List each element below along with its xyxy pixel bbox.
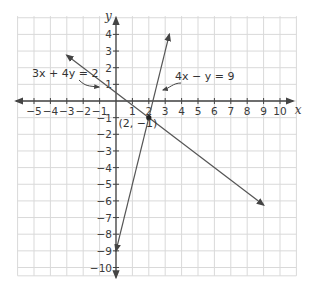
x-axis-label: x	[295, 103, 302, 117]
y-tick-label: 4	[105, 28, 112, 40]
x-tick-label: 3	[162, 105, 169, 117]
y-tick-label: −4	[97, 162, 113, 174]
y-tick-label: −9	[97, 245, 112, 257]
y-tick-label: −3	[97, 145, 112, 157]
x-tick-label: 6	[211, 105, 218, 117]
y-tick-label: −5	[97, 178, 112, 190]
y-axis-label: y	[104, 9, 112, 23]
y-tick-label: −8	[97, 228, 112, 240]
equation-label-2: 4x − y = 9	[175, 70, 234, 83]
y-tick-label: −7	[97, 212, 112, 224]
equation-label-1: 3x + 4y = 2	[32, 67, 98, 80]
x-tick-label: 7	[227, 105, 234, 117]
y-tick-label: −6	[97, 195, 113, 207]
annotations: (2, −1)3x + 4y = 24x − y = 9	[32, 67, 234, 130]
y-tick-label: −1	[97, 112, 112, 124]
x-tick-label: −2	[75, 105, 90, 117]
x-tick-label: 9	[260, 105, 267, 117]
x-tick-label: 5	[195, 105, 202, 117]
x-tick-label: −4	[43, 105, 59, 117]
axes	[16, 18, 293, 278]
x-tick-label: 4	[178, 105, 185, 117]
x-tick-label: −3	[59, 105, 74, 117]
y-tick-label: −10	[90, 262, 112, 274]
intersection-label: (2, −1)	[118, 117, 157, 130]
x-tick-label: −5	[26, 105, 41, 117]
coordinate-plane: −5−4−3−2−1123456789104321−1−2−3−4−5−6−7−…	[0, 0, 312, 297]
y-tick-label: 2	[105, 62, 112, 74]
y-tick-label: −2	[97, 128, 112, 140]
leader-arrow-1	[79, 80, 99, 87]
x-tick-label: 8	[244, 105, 251, 117]
x-tick-label: 10	[273, 105, 286, 117]
grid-lines	[18, 16, 297, 276]
line-2	[116, 34, 169, 250]
y-tick-label: 3	[105, 45, 112, 57]
